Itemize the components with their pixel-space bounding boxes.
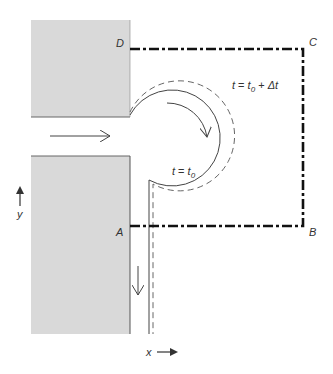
x-axis-label: x (145, 346, 152, 358)
control-volume-ABCD (130, 49, 303, 226)
label-C: C (309, 36, 317, 48)
label-t-equals-t0: t = t0 (172, 165, 196, 180)
diagram-canvas: D C B A t = t0 + Δt t = t0 y x (0, 0, 333, 374)
fluid-boundary-t0 (130, 90, 220, 334)
label-A: A (115, 226, 123, 238)
upper-wall-block (31, 20, 130, 117)
label-t-equals-t0-plus-dt: t = t0 + Δt (232, 79, 279, 94)
label-D: D (116, 37, 124, 49)
fluid-boundary-t0-plus-dt (130, 81, 235, 334)
y-axis-label: y (16, 208, 24, 220)
rotation-arrow (167, 103, 207, 137)
lower-wall-block (31, 156, 130, 334)
label-B: B (309, 226, 316, 238)
